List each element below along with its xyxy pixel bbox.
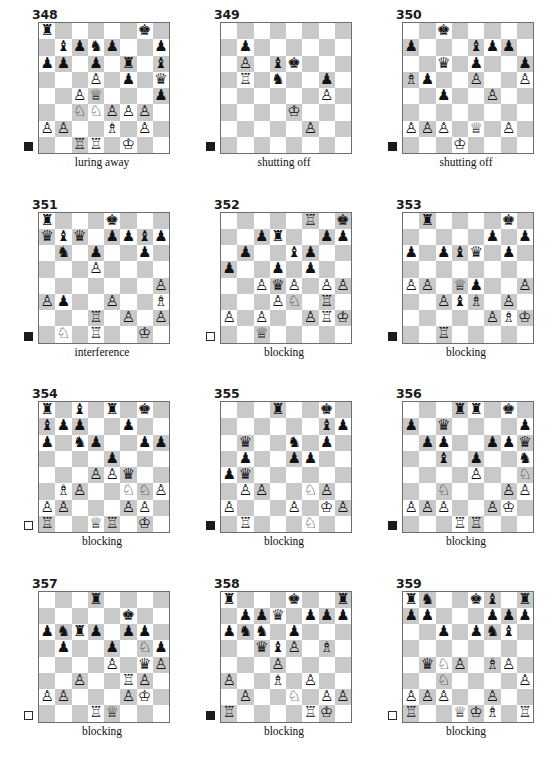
board-square[interactable] xyxy=(120,121,136,137)
board-square[interactable] xyxy=(88,23,104,39)
piece-bP[interactable]: ♟ xyxy=(486,39,499,54)
board-square[interactable]: ♗ xyxy=(104,121,120,137)
board-square[interactable] xyxy=(221,435,237,451)
piece-wQ[interactable]: ♕ xyxy=(255,326,268,341)
board-square[interactable]: ♖ xyxy=(88,326,104,342)
piece-wP[interactable]: ♙ xyxy=(122,104,135,119)
board-square[interactable] xyxy=(72,467,88,483)
board-square[interactable] xyxy=(335,516,351,532)
board-square[interactable] xyxy=(254,88,270,104)
piece-wP[interactable]: ♙ xyxy=(154,310,167,325)
piece-bQ[interactable]: ♛ xyxy=(437,56,450,71)
board-square[interactable]: ♟ xyxy=(153,39,169,55)
board-square[interactable] xyxy=(153,213,169,229)
piece-wP[interactable]: ♙ xyxy=(320,88,333,103)
piece-bQ[interactable]: ♛ xyxy=(154,72,167,87)
board-square[interactable]: ♙ xyxy=(286,500,302,516)
board-square[interactable] xyxy=(501,516,517,532)
piece-wN[interactable]: ♘ xyxy=(437,483,450,498)
board-square[interactable] xyxy=(270,516,286,532)
board-square[interactable]: ♙ xyxy=(419,278,435,294)
board-square[interactable] xyxy=(221,88,237,104)
piece-wN[interactable]: ♘ xyxy=(138,640,151,655)
board-square[interactable] xyxy=(72,56,88,72)
piece-bP[interactable]: ♟ xyxy=(486,608,499,623)
board-square[interactable]: ♙ xyxy=(517,278,533,294)
board-square[interactable] xyxy=(335,657,351,673)
board-square[interactable]: ♙ xyxy=(88,261,104,277)
board-square[interactable] xyxy=(88,294,104,310)
board-square[interactable] xyxy=(468,213,484,229)
piece-wR[interactable]: ♖ xyxy=(222,705,235,720)
board-square[interactable] xyxy=(501,451,517,467)
board-square[interactable]: ♔ xyxy=(286,104,302,120)
board-square[interactable] xyxy=(501,592,517,608)
board-square[interactable]: ♜ xyxy=(270,402,286,418)
board-square[interactable] xyxy=(72,592,88,608)
piece-bP[interactable]: ♟ xyxy=(502,435,515,450)
board-square[interactable]: ♙ xyxy=(419,121,435,137)
board-square[interactable]: ♘ xyxy=(55,326,71,342)
board-square[interactable]: ♙ xyxy=(484,88,500,104)
board-square[interactable]: ♙ xyxy=(335,689,351,705)
board-square[interactable]: ♟ xyxy=(286,451,302,467)
board-square[interactable] xyxy=(39,451,55,467)
board-square[interactable] xyxy=(137,261,153,277)
piece-wP[interactable]: ♙ xyxy=(57,689,70,704)
board-square[interactable] xyxy=(39,467,55,483)
piece-wP[interactable]: ♙ xyxy=(255,483,268,498)
board-square[interactable]: ♙ xyxy=(403,278,419,294)
board-square[interactable] xyxy=(254,104,270,120)
board-square[interactable]: ♖ xyxy=(39,516,55,532)
board-square[interactable]: ♔ xyxy=(517,310,533,326)
piece-wK[interactable]: ♔ xyxy=(138,516,151,531)
board-square[interactable]: ♙ xyxy=(286,640,302,656)
board-square[interactable] xyxy=(286,483,302,499)
board-square[interactable]: ♟ xyxy=(39,56,55,72)
piece-bK[interactable]: ♚ xyxy=(287,592,300,607)
board-square[interactable]: ♙ xyxy=(484,689,500,705)
piece-bB[interactable]: ♝ xyxy=(271,56,284,71)
piece-bQ[interactable]: ♛ xyxy=(122,467,135,482)
board-square[interactable]: ♟ xyxy=(484,39,500,55)
board-square[interactable] xyxy=(419,624,435,640)
board-square[interactable] xyxy=(517,624,533,640)
board-square[interactable] xyxy=(501,673,517,689)
board-square[interactable]: ♘ xyxy=(286,689,302,705)
board-square[interactable]: ♙ xyxy=(104,467,120,483)
board-square[interactable] xyxy=(137,56,153,72)
piece-bQ[interactable]: ♛ xyxy=(469,245,482,260)
piece-bK[interactable]: ♚ xyxy=(138,402,151,417)
piece-bN[interactable]: ♞ xyxy=(73,435,86,450)
piece-wP[interactable]: ♙ xyxy=(287,640,300,655)
board-square[interactable] xyxy=(468,640,484,656)
piece-wP[interactable]: ♙ xyxy=(138,500,151,515)
board-square[interactable] xyxy=(302,657,318,673)
board-square[interactable]: ♖ xyxy=(88,137,104,153)
board-square[interactable]: ♘ xyxy=(72,104,88,120)
board-square[interactable]: ♙ xyxy=(302,121,318,137)
piece-wP[interactable]: ♙ xyxy=(105,294,118,309)
board-square[interactable] xyxy=(319,56,335,72)
board-square[interactable] xyxy=(254,39,270,55)
board-square[interactable] xyxy=(237,23,253,39)
board-square[interactable] xyxy=(137,705,153,721)
board-square[interactable] xyxy=(137,592,153,608)
board-square[interactable]: ♙ xyxy=(104,104,120,120)
board-square[interactable]: ♔ xyxy=(137,516,153,532)
board-square[interactable]: ♖ xyxy=(319,310,335,326)
board-square[interactable]: ♛ xyxy=(254,640,270,656)
board-square[interactable] xyxy=(436,39,452,55)
piece-bK[interactable]: ♚ xyxy=(287,56,300,71)
board-square[interactable]: ♘ xyxy=(436,673,452,689)
piece-bQ[interactable]: ♛ xyxy=(271,608,284,623)
piece-wP[interactable]: ♙ xyxy=(486,88,499,103)
board-square[interactable]: ♙ xyxy=(403,500,419,516)
board-square[interactable] xyxy=(419,104,435,120)
piece-wN[interactable]: ♘ xyxy=(73,104,86,119)
board-square[interactable] xyxy=(270,245,286,261)
board-square[interactable] xyxy=(452,72,468,88)
board-square[interactable]: ♚ xyxy=(468,592,484,608)
board-square[interactable]: ♙ xyxy=(270,294,286,310)
piece-wP[interactable]: ♙ xyxy=(336,689,349,704)
